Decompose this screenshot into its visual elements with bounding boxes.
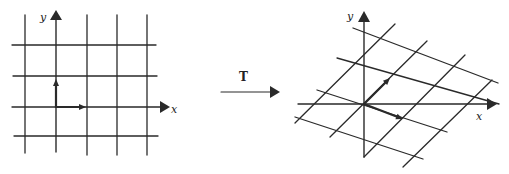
transformation-diagram: x y T x y xyxy=(0,0,509,174)
left-x-axis-label: x xyxy=(171,104,177,115)
y-axis-arrow-icon xyxy=(358,11,370,22)
arrowhead-icon xyxy=(79,104,86,110)
transformed-grid xyxy=(295,24,499,167)
left-y-axis-label: y xyxy=(40,12,46,23)
arrowhead-icon xyxy=(53,79,59,86)
original-basis-vectors xyxy=(53,79,86,110)
x-axis-arrow-icon xyxy=(160,101,170,113)
diagram-canvas xyxy=(0,0,509,174)
right-y-axis-label: y xyxy=(347,11,353,22)
basis-vector-Te1 xyxy=(364,104,396,116)
grid-line xyxy=(337,58,499,104)
transformed-axes xyxy=(298,11,497,157)
transform-label: T xyxy=(239,71,248,83)
y-axis-arrow-icon xyxy=(50,10,62,20)
transform-arrow xyxy=(221,86,280,98)
transform-arrowhead-icon xyxy=(270,86,280,98)
arrowhead-icon xyxy=(395,114,403,120)
original-axes xyxy=(12,10,170,152)
right-x-axis-label: x xyxy=(476,111,482,122)
grid-line xyxy=(353,28,498,83)
transformed-basis-vectors xyxy=(364,78,403,119)
basis-vector-Te2 xyxy=(364,83,385,104)
x-axis-arrow-icon xyxy=(487,98,497,110)
original-grid xyxy=(12,15,158,155)
grid-line xyxy=(295,117,423,159)
grid-line xyxy=(403,80,492,167)
